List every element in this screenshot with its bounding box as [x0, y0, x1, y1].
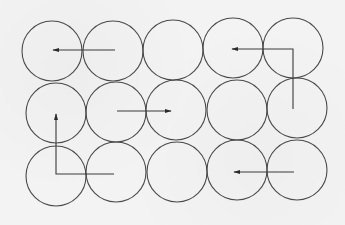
circle-r3-c3 — [147, 142, 207, 202]
circle-r2-c2 — [86, 82, 146, 142]
circle-r3-c5 — [267, 140, 327, 200]
arrow-2-icon — [232, 49, 293, 109]
circle-r2-c4 — [207, 80, 267, 140]
circle-r2-c5 — [267, 78, 327, 138]
diagram-canvas — [0, 0, 345, 225]
circle-r1-c4 — [203, 18, 263, 78]
circle-r2-c3 — [146, 80, 206, 140]
circle-r3-c2 — [86, 142, 146, 202]
circle-r1-c1 — [22, 21, 82, 81]
circles-group — [22, 18, 327, 206]
circle-r1-c2 — [83, 21, 143, 81]
circle-r3-c4 — [207, 140, 267, 200]
circle-grid-diagram — [0, 0, 345, 225]
arrows-group — [53, 49, 294, 174]
circle-r1-c3 — [143, 20, 203, 80]
